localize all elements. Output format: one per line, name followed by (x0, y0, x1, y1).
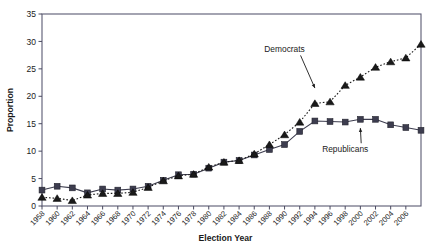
x-axis-tick-label: 1984 (225, 209, 243, 227)
x-axis-tick-label: 2006 (392, 209, 410, 227)
x-axis-tick-label: 1962 (59, 209, 77, 227)
annotation-label-republicans: Republicans (322, 144, 368, 154)
x-axis-tick-label: 1994 (301, 209, 319, 227)
data-point-republicans (373, 116, 379, 122)
y-axis-tick-label: 35 (27, 9, 37, 19)
x-axis-title: Election Year (199, 233, 253, 243)
data-point-republicans (282, 142, 288, 148)
data-point-democrats (417, 41, 425, 48)
data-point-republicans (69, 185, 75, 191)
x-axis-tick-label: 1974 (150, 209, 168, 227)
data-point-democrats (53, 195, 61, 202)
y-axis-title: Proportion (5, 88, 15, 132)
chart-figure: 05101520253035Proportion1958196019621964… (0, 0, 436, 250)
data-point-republicans (418, 127, 424, 133)
data-point-democrats (341, 82, 349, 89)
x-axis-tick-label: 1958 (28, 209, 46, 227)
data-point-democrats (296, 118, 304, 125)
annotation-arrow-democrats (301, 55, 315, 88)
x-axis-tick-label: 1978 (180, 209, 198, 227)
data-point-democrats (38, 194, 46, 201)
data-point-republicans (327, 119, 333, 125)
y-axis-tick-label: 15 (27, 119, 37, 129)
data-point-democrats (371, 64, 379, 71)
annotation-arrowhead (359, 128, 362, 132)
y-axis-tick-label: 5 (31, 174, 36, 184)
series-line-democrats (42, 44, 421, 200)
x-axis-tick-label: 2002 (362, 209, 380, 227)
y-axis-tick-label: 25 (27, 64, 37, 74)
x-axis-tick-label: 2000 (347, 209, 365, 227)
x-axis-tick-label: 1976 (165, 209, 183, 227)
data-point-democrats (356, 73, 364, 80)
x-axis-tick-label: 1998 (331, 209, 349, 227)
y-axis-tick-label: 0 (31, 201, 36, 211)
x-axis-tick-label: 1970 (119, 209, 137, 227)
data-point-republicans (39, 187, 45, 193)
data-point-republicans (297, 128, 303, 134)
x-axis-tick-label: 1960 (43, 209, 61, 227)
plot-border (42, 14, 421, 206)
x-axis-tick-label: 1982 (210, 209, 228, 227)
x-axis-tick-label: 1966 (89, 209, 107, 227)
x-axis-tick-label: 1980 (195, 209, 213, 227)
data-point-republicans (403, 125, 409, 131)
y-axis-tick-label: 20 (27, 91, 37, 101)
data-point-republicans (54, 183, 60, 189)
data-point-republicans (357, 116, 363, 122)
series-line-republicans (42, 119, 421, 193)
data-point-republicans (388, 122, 394, 128)
data-point-republicans (342, 119, 348, 125)
data-point-republicans (312, 118, 318, 124)
data-point-democrats (265, 141, 273, 148)
x-axis-tick-label: 1990 (271, 209, 289, 227)
line-chart: 05101520253035Proportion1958196019621964… (0, 0, 436, 250)
data-point-democrats (402, 54, 410, 61)
x-axis-tick-label: 1988 (256, 209, 274, 227)
data-point-democrats (311, 100, 319, 107)
x-axis-tick-label: 1992 (286, 209, 304, 227)
annotation-label-democrats: Democrats (264, 44, 305, 54)
y-axis-tick-label: 10 (27, 146, 37, 156)
y-axis-tick-label: 30 (27, 37, 37, 47)
x-axis-tick-label: 1968 (104, 209, 122, 227)
x-axis-tick-label: 1986 (241, 209, 259, 227)
x-axis-tick-label: 1972 (134, 209, 152, 227)
x-axis-tick-label: 1964 (74, 209, 92, 227)
x-axis-tick-label: 1996 (316, 209, 334, 227)
data-point-democrats (68, 197, 76, 204)
x-axis-tick-label: 2004 (377, 209, 395, 227)
data-point-democrats (387, 58, 395, 65)
